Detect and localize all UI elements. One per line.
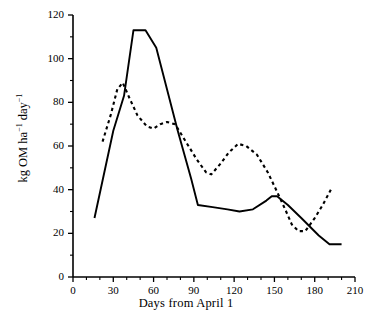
axis-lines bbox=[73, 15, 355, 277]
chart-figure: 020406080100120 0306090120150180210 Days… bbox=[0, 0, 372, 321]
y-axis-title-main-1: kg OM ha bbox=[16, 132, 30, 183]
y-axis-title: kg OM ha−1 day−1 bbox=[15, 53, 31, 223]
y-tick-label: 60 bbox=[28, 140, 64, 151]
y-tick-label: 20 bbox=[28, 227, 64, 238]
y-axis-title-main-2: day bbox=[16, 102, 30, 123]
y-tick-label: 100 bbox=[28, 53, 64, 64]
x-tick-label: 150 bbox=[254, 285, 294, 296]
y-tick-label: 80 bbox=[28, 96, 64, 107]
y-tick-label: 120 bbox=[28, 9, 64, 20]
x-tick-label: 0 bbox=[53, 285, 93, 296]
data-series-group bbox=[94, 30, 341, 244]
x-tick-label: 60 bbox=[134, 285, 174, 296]
y-tick-label: 0 bbox=[28, 271, 64, 282]
y-axis-title-sup-1: −1 bbox=[15, 123, 24, 132]
dashed-series bbox=[103, 83, 331, 231]
x-axis-title: Days from April 1 bbox=[0, 296, 372, 311]
solid-series bbox=[94, 30, 341, 244]
x-tick-label: 120 bbox=[214, 285, 254, 296]
x-tick-label: 30 bbox=[93, 285, 133, 296]
x-tick-label: 210 bbox=[335, 285, 372, 296]
x-tick-label: 90 bbox=[174, 285, 214, 296]
y-axis-title-sup-2: −1 bbox=[15, 94, 24, 103]
x-tick-label: 180 bbox=[295, 285, 335, 296]
y-tick-label: 40 bbox=[28, 184, 64, 195]
